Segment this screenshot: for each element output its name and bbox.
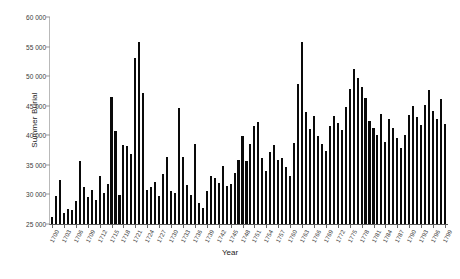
- bar: [357, 78, 359, 224]
- bar: [408, 115, 410, 224]
- x-tick-mark: [135, 225, 136, 228]
- bar: [368, 121, 370, 224]
- bar: [412, 106, 414, 224]
- bar: [206, 191, 208, 224]
- bar: [317, 136, 319, 224]
- bar: [162, 174, 164, 224]
- bar: [198, 203, 200, 224]
- bar: [114, 131, 116, 224]
- x-tick-label: 1715: [108, 229, 120, 244]
- bar: [309, 129, 311, 224]
- bar: [170, 191, 172, 224]
- x-tick-mark: [76, 225, 77, 228]
- bar-chart: Summer Burial 25 00030 00035 00040 00045…: [0, 0, 460, 279]
- x-tick-label: 1766: [311, 229, 323, 244]
- x-tick-mark: [278, 225, 279, 228]
- x-tick-label: 1733: [180, 229, 192, 244]
- bar: [424, 105, 426, 224]
- bar: [325, 151, 327, 224]
- bar: [146, 190, 148, 224]
- bar: [440, 99, 442, 224]
- bar: [210, 176, 212, 224]
- bar: [333, 116, 335, 224]
- bar: [257, 122, 259, 224]
- x-tick-mark: [243, 225, 244, 228]
- x-tick-label: 1703: [61, 229, 73, 244]
- bar: [384, 142, 386, 224]
- bar: [83, 187, 85, 224]
- bar: [313, 116, 315, 224]
- x-tick-label: 1775: [346, 229, 358, 244]
- bar: [285, 167, 287, 224]
- bar: [130, 154, 132, 224]
- bar: [182, 157, 184, 224]
- x-tick-mark: [207, 225, 208, 228]
- bar: [444, 124, 446, 224]
- x-tick-mark: [350, 225, 351, 228]
- bar: [214, 178, 216, 224]
- x-tick-layer: 1700170317061709171217151718172117241727…: [50, 225, 447, 265]
- x-tick-label: 1769: [323, 229, 335, 244]
- bar: [237, 160, 239, 224]
- x-tick-label: 1736: [192, 229, 204, 244]
- bar: [194, 144, 196, 224]
- bar: [341, 130, 343, 224]
- bar: [305, 112, 307, 224]
- x-tick-label: 1787: [394, 229, 406, 244]
- x-tick-label: 1778: [358, 229, 370, 244]
- plot-area: 25 00030 00035 00040 00045 00050 00055 0…: [50, 17, 447, 224]
- bar: [428, 90, 430, 224]
- bar: [345, 107, 347, 224]
- bar: [361, 87, 363, 224]
- bar: [186, 185, 188, 224]
- bar: [289, 176, 291, 224]
- bar: [158, 196, 160, 224]
- bar: [126, 146, 128, 224]
- x-tick-mark: [52, 225, 53, 228]
- bar: [107, 184, 109, 224]
- x-tick-mark: [231, 225, 232, 228]
- bar: [166, 157, 168, 224]
- bar: [380, 114, 382, 224]
- bar: [436, 119, 438, 224]
- bar: [178, 108, 180, 224]
- bar-series: [50, 17, 447, 224]
- bar: [432, 111, 434, 224]
- x-tick-label: 1730: [168, 229, 180, 244]
- x-tick-label: 1745: [227, 229, 239, 244]
- bar: [150, 187, 152, 224]
- x-tick-label: 1751: [251, 229, 263, 244]
- x-tick-mark: [266, 225, 267, 228]
- bar: [273, 145, 275, 224]
- x-tick-mark: [433, 225, 434, 228]
- bar: [337, 123, 339, 224]
- x-tick-mark: [254, 225, 255, 228]
- x-tick-label: 1712: [96, 229, 108, 244]
- x-tick-label: 1721: [132, 229, 144, 244]
- x-tick-label: 1760: [287, 229, 299, 244]
- bar: [329, 126, 331, 224]
- bar: [122, 145, 124, 224]
- x-tick-mark: [88, 225, 89, 228]
- x-tick-mark: [421, 225, 422, 228]
- bar: [392, 128, 394, 224]
- x-tick-label: 1799: [442, 229, 454, 244]
- bar: [301, 42, 303, 224]
- bar: [87, 197, 89, 224]
- bar: [234, 173, 236, 224]
- x-tick-mark: [445, 225, 446, 228]
- bar: [404, 135, 406, 224]
- x-tick-label: 1796: [430, 229, 442, 244]
- bar: [99, 176, 101, 224]
- x-tick-mark: [362, 225, 363, 228]
- bar: [353, 69, 355, 224]
- bar: [134, 58, 136, 224]
- bar-slot: [443, 17, 447, 224]
- x-tick-label: 1748: [239, 229, 251, 244]
- bar: [218, 183, 220, 224]
- bar: [55, 196, 57, 224]
- bar: [253, 126, 255, 224]
- bar: [71, 210, 73, 224]
- bar: [245, 161, 247, 224]
- bar: [265, 171, 267, 224]
